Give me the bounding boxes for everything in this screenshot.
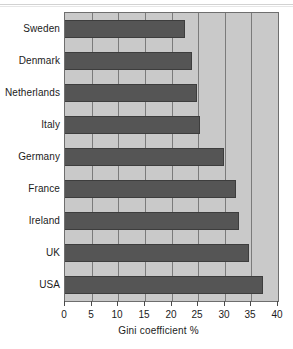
y-axis-label-germany: Germany bbox=[0, 151, 60, 162]
x-axis-title: Gini coefficient % bbox=[0, 325, 293, 336]
y-axis-label-usa: USA bbox=[0, 279, 60, 290]
scan-artifact-line-secondary bbox=[0, 6, 293, 7]
y-axis-label-sweden: Sweden bbox=[0, 23, 60, 34]
plot-area bbox=[64, 12, 279, 302]
x-tick-label-15: 15 bbox=[138, 309, 149, 320]
x-tick-label-10: 10 bbox=[111, 309, 122, 320]
bar-netherlands bbox=[65, 84, 197, 102]
x-axis-title-text: Gini coefficient % bbox=[118, 325, 199, 336]
y-axis-label-netherlands: Netherlands bbox=[0, 87, 60, 98]
y-axis-label-denmark: Denmark bbox=[0, 55, 60, 66]
bar-france bbox=[65, 180, 236, 198]
bar-uk bbox=[65, 244, 249, 262]
x-tick-label-20: 20 bbox=[165, 309, 176, 320]
scan-artifact-line bbox=[0, 4, 293, 5]
gini-coefficient-bar-chart: SwedenDenmarkNetherlandsItalyGermanyFran… bbox=[0, 0, 293, 349]
x-tick-label-30: 30 bbox=[218, 309, 229, 320]
bar-denmark bbox=[65, 52, 192, 70]
x-tick-label-5: 5 bbox=[88, 309, 94, 320]
x-tick-label-40: 40 bbox=[271, 309, 282, 320]
bar-ireland bbox=[65, 212, 239, 230]
bar-usa bbox=[65, 276, 263, 294]
x-tick-label-25: 25 bbox=[191, 309, 202, 320]
y-axis-label-uk: UK bbox=[0, 247, 60, 258]
y-axis-category-labels: SwedenDenmarkNetherlandsItalyGermanyFran… bbox=[0, 12, 60, 300]
x-tick-label-35: 35 bbox=[244, 309, 255, 320]
y-axis-label-france: France bbox=[0, 183, 60, 194]
gridline-35 bbox=[251, 13, 252, 301]
y-axis-label-ireland: Ireland bbox=[0, 215, 60, 226]
x-tick-label-0: 0 bbox=[61, 309, 67, 320]
x-axis-tick-labels: 0510152025303540 bbox=[64, 303, 278, 319]
y-axis-label-italy: Italy bbox=[0, 119, 60, 130]
bar-sweden bbox=[65, 20, 185, 38]
bar-italy bbox=[65, 116, 200, 134]
bar-germany bbox=[65, 148, 224, 166]
